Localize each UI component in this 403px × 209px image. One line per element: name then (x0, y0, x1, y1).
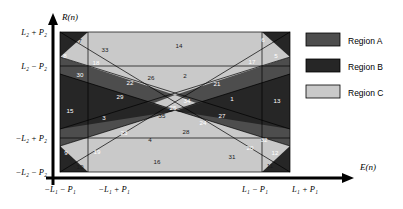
region-number: 10 (77, 163, 84, 170)
region-number: 33 (102, 46, 109, 53)
region-number: 19 (94, 148, 101, 155)
region-number: 35 (159, 112, 166, 119)
region-number: 24 (200, 119, 207, 126)
region-number: 5 (274, 52, 278, 59)
region-number: 14 (176, 42, 183, 49)
region-number: 20 (247, 144, 254, 151)
region-number: 6 (261, 36, 265, 43)
region-number: 22 (127, 79, 134, 86)
legend: Region ARegion BRegion C (306, 33, 383, 98)
region-number: 1 (230, 95, 234, 102)
legend-label: Region B (348, 62, 383, 72)
legend-label: Region C (348, 88, 383, 98)
legend-swatch (306, 85, 340, 98)
region-number: 23 (121, 129, 128, 136)
x-tick-3: L₁ + P₁ (291, 184, 318, 194)
x-axis-arrow-icon (342, 173, 354, 183)
x-tick-0: −L₁ − P₁ (44, 184, 76, 194)
region-number: 13 (274, 97, 281, 104)
region-number: 4 (148, 136, 152, 143)
region-number: 21 (214, 80, 221, 87)
figure-svg: R(n) E(n) L₂ + P₂ L₂ − P₂ −L₂ + P₂ −L₂ −… (0, 0, 403, 209)
region-number: 30 (77, 71, 84, 78)
region-number: 3 (102, 114, 106, 121)
y-tick-2: −L₂ + P₂ (15, 133, 47, 143)
region-number: 15 (67, 107, 74, 114)
region-number: 2 (183, 72, 187, 79)
region-number: 16 (154, 158, 161, 165)
region-number: 34 (184, 97, 191, 104)
region-partition-figure: R(n) E(n) L₂ + P₂ L₂ − P₂ −L₂ + P₂ −L₂ −… (0, 0, 403, 209)
y-axis-arrow-icon (48, 13, 58, 25)
region-number: 17 (249, 58, 256, 65)
x-axis-title: E(n) (359, 162, 376, 172)
region-number: 32 (261, 136, 268, 143)
y-axis-title: R(n) (61, 12, 78, 22)
region-number: 9 (64, 149, 68, 156)
region-number: 28 (183, 128, 190, 135)
legend-label: Region A (348, 36, 383, 46)
region-number: 27 (219, 112, 226, 119)
x-tick-2: L₁ − P₁ (241, 184, 268, 194)
x-tick-1: −L₁ + P₁ (98, 184, 130, 194)
region-number: 25 (170, 104, 177, 111)
region-number: 29 (117, 93, 124, 100)
region-number: 18 (93, 59, 100, 66)
y-tick-1: L₂ − P₂ (20, 61, 47, 71)
region-number: 12 (272, 149, 279, 156)
legend-swatch (306, 33, 340, 46)
region-number: 7 (78, 37, 82, 44)
region-number: 31 (229, 153, 236, 160)
y-tick-3: −L₂ − P₂ (15, 167, 47, 177)
legend-swatch (306, 59, 340, 72)
region-number: 8 (63, 52, 67, 59)
region-number: 26 (148, 74, 155, 81)
region-number: 11 (267, 162, 274, 169)
y-tick-0: L₂ + P₂ (20, 27, 47, 37)
